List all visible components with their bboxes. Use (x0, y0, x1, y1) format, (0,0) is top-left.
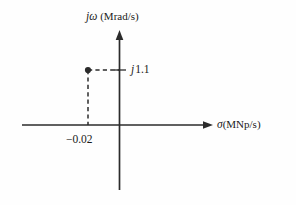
x-axis-label: σ(MNp/s) (217, 119, 261, 131)
s-plane-diagram: jω (Mrad/s) σ(MNp/s) j1.1 −0.02 (0, 0, 296, 205)
imaginary-axis-arrowhead (116, 30, 124, 40)
plot-area (0, 0, 296, 205)
y-axis-unit: (Mrad/s) (100, 10, 139, 22)
real-axis-arrowhead (203, 121, 213, 129)
y-axis-label: jω (Mrad/s) (86, 11, 139, 23)
pole-point-marker (85, 67, 91, 73)
y-axis-symbol: jω (86, 10, 97, 22)
pole-real-value-label: −0.02 (66, 134, 93, 146)
imaginary-value: 1.1 (135, 63, 149, 75)
x-axis-unit: (MNp/s) (223, 118, 261, 130)
pole-imaginary-value-label: j1.1 (131, 64, 150, 76)
